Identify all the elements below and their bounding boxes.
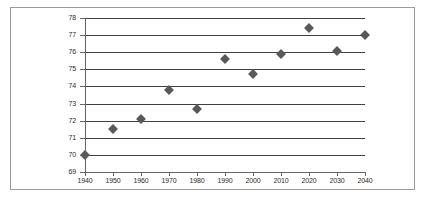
chart-figure: 69707172737475767778 1940195019601970198…: [0, 0, 426, 205]
figure-border: [10, 7, 415, 190]
